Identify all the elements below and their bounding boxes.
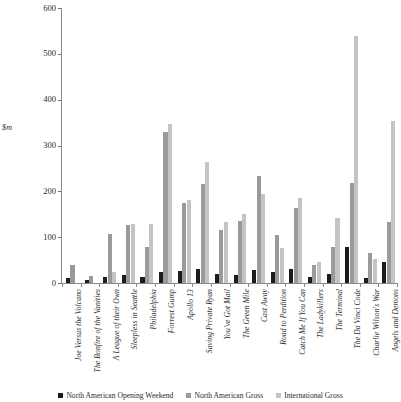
x-axis-tick-label: Philadelphia bbox=[149, 289, 158, 329]
x-axis-tick-mark bbox=[267, 283, 268, 287]
x-axis-tick-label: A League of their Own bbox=[112, 289, 121, 360]
x-axis-tick-mark bbox=[211, 283, 212, 287]
legend-swatch-icon bbox=[276, 393, 281, 398]
bar bbox=[187, 200, 191, 283]
legend-swatch-icon bbox=[58, 393, 63, 398]
plot-area bbox=[62, 8, 397, 283]
bar bbox=[298, 198, 302, 283]
x-axis-tick-mark bbox=[174, 283, 175, 287]
bar-group bbox=[382, 8, 395, 283]
bar-group bbox=[364, 8, 377, 283]
bar bbox=[261, 194, 265, 283]
x-axis-tick-label: Angels and Demons bbox=[391, 289, 400, 351]
bar-group bbox=[308, 8, 321, 283]
x-axis-tick-label: Charlie Wilson's War bbox=[372, 289, 381, 356]
bar-group bbox=[85, 8, 98, 283]
x-axis-tick-label: Sleepless in Seattle bbox=[130, 289, 139, 349]
x-axis-tick-label: Saving Private Ryan bbox=[205, 289, 214, 353]
x-axis-tick-label: The Da Vinci Code bbox=[353, 289, 362, 349]
bar-group bbox=[327, 8, 340, 283]
bar-group bbox=[140, 8, 153, 283]
bar-group bbox=[103, 8, 116, 283]
x-axis-tick-label: The Bonfire of the Vanities bbox=[93, 289, 102, 372]
y-axis-tick-label: 400 bbox=[28, 95, 56, 104]
bar bbox=[70, 265, 74, 283]
x-axis-tick-label: Joe Versus the Volcano bbox=[74, 289, 83, 361]
x-axis-tick-mark bbox=[118, 283, 119, 287]
bar-group bbox=[252, 8, 265, 283]
x-axis-tick-mark bbox=[397, 283, 398, 287]
legend-item: International Gross bbox=[276, 392, 342, 400]
legend-label: North American Gross bbox=[194, 392, 263, 400]
x-axis-tick-mark bbox=[378, 283, 379, 287]
legend-item: North American Opening Weekend bbox=[58, 392, 173, 400]
y-axis-tick-label: 500 bbox=[28, 49, 56, 58]
legend-item: North American Gross bbox=[186, 392, 263, 400]
x-axis-tick-label: The Green Mile bbox=[242, 289, 251, 338]
bar-group bbox=[234, 8, 247, 283]
x-axis-tick-label: Apollo 13 bbox=[186, 289, 195, 320]
x-axis-tick-mark bbox=[62, 283, 63, 287]
x-axis-tick-mark bbox=[341, 283, 342, 287]
bar bbox=[391, 121, 395, 283]
bar-group bbox=[196, 8, 209, 283]
bar-group bbox=[289, 8, 302, 283]
bar bbox=[335, 218, 339, 283]
x-axis-tick-mark bbox=[323, 283, 324, 287]
bar bbox=[224, 222, 228, 283]
x-axis-tick-mark bbox=[360, 283, 361, 287]
x-axis-tick-label: Cast Away bbox=[260, 289, 269, 322]
bar-group bbox=[215, 8, 228, 283]
bar bbox=[205, 162, 209, 283]
bar bbox=[280, 248, 284, 283]
bar bbox=[168, 124, 172, 284]
bar bbox=[354, 36, 358, 284]
x-axis-tick-label: The Ladykillers bbox=[316, 289, 325, 338]
y-axis-tick-label: 300 bbox=[28, 141, 56, 150]
bar-chart: $m 0100200300400500600 Joe Versus the Vo… bbox=[0, 0, 401, 402]
chart-legend: North American Opening WeekendNorth Amer… bbox=[0, 389, 401, 402]
y-axis-tick-label: 200 bbox=[28, 187, 56, 196]
bar-group bbox=[122, 8, 135, 283]
bar bbox=[242, 214, 246, 283]
bar bbox=[317, 262, 321, 283]
bar bbox=[131, 224, 135, 283]
legend-swatch-icon bbox=[186, 393, 191, 398]
x-axis-tick-label: Road to Perdition bbox=[279, 289, 288, 345]
bar bbox=[373, 259, 377, 283]
bar bbox=[112, 272, 116, 283]
x-axis-tick-mark bbox=[248, 283, 249, 287]
x-axis-tick-mark bbox=[230, 283, 231, 287]
bar-group bbox=[66, 8, 79, 283]
x-axis-tick-label: Catch Me If You Can bbox=[298, 289, 307, 355]
x-axis-tick-mark bbox=[136, 283, 137, 287]
y-axis-tick-label: 600 bbox=[28, 4, 56, 13]
bar-group bbox=[178, 8, 191, 283]
bar-group bbox=[159, 8, 172, 283]
y-axis-tick-label: 100 bbox=[28, 233, 56, 242]
x-axis-tick-mark bbox=[304, 283, 305, 287]
legend-label: International Gross bbox=[284, 392, 342, 400]
x-axis-tick-mark bbox=[81, 283, 82, 287]
bar bbox=[89, 276, 93, 283]
y-axis-title: $m bbox=[2, 123, 12, 132]
x-axis-tick-label: Forrest Gump bbox=[167, 289, 176, 333]
bar bbox=[149, 224, 153, 283]
legend-label: North American Opening Weekend bbox=[66, 392, 173, 400]
bar-group bbox=[271, 8, 284, 283]
x-axis-tick-mark bbox=[99, 283, 100, 287]
x-axis-tick-mark bbox=[155, 283, 156, 287]
x-axis-tick-label: You've Got Mail bbox=[223, 289, 232, 340]
x-axis-tick-mark bbox=[285, 283, 286, 287]
x-axis-tick-label: The Terminal bbox=[335, 289, 344, 331]
bar-group bbox=[345, 8, 358, 283]
y-axis-tick-label: 0 bbox=[28, 279, 56, 288]
x-axis-tick-mark bbox=[192, 283, 193, 287]
